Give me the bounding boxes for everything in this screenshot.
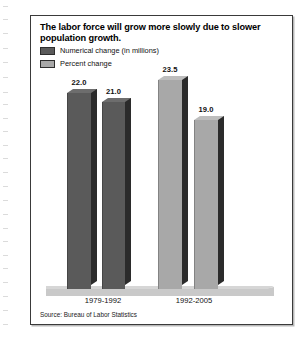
chart-legend: Numerical change (in millions) Percent c… [40, 45, 159, 71]
page-edge-mark [3, 255, 8, 256]
bar-side-face [91, 89, 97, 285]
page-edge-mark [3, 241, 8, 242]
page-edge-mark [3, 228, 8, 229]
bar-front-face [67, 93, 91, 289]
page-edge-mark [3, 324, 8, 325]
bar-1992-2005-percent: 19.0 [194, 120, 218, 289]
page-edge-mark [3, 172, 8, 173]
page-edge-mark [3, 131, 8, 132]
bar-1979-1992-percent: 21.0 [102, 102, 125, 289]
page-edge-mark [3, 282, 8, 283]
chart-title: The labor force will grow more slowly du… [40, 22, 283, 43]
legend-swatch-numerical-change [40, 47, 55, 55]
bar-1979-1992-numerical: 22.0 [67, 93, 91, 289]
page-edge-mark [3, 19, 8, 20]
page-edge-mark [3, 158, 8, 159]
page-edge-mark [3, 186, 8, 187]
page-edge-mark [3, 296, 8, 297]
chart-source-note: Source: Bureau of Labor Statistics [40, 311, 137, 318]
page-edge-mark [3, 145, 8, 146]
bar-front-face [102, 102, 125, 289]
page-edge-mark [3, 62, 8, 63]
category-label-2: 1992-2005 [176, 296, 212, 305]
bar-value-label: 23.5 [163, 65, 178, 74]
bar-value-label: 21.0 [106, 87, 121, 96]
page-edge-mark [3, 92, 8, 93]
bar-side-face [218, 116, 224, 285]
page-edge-mark [3, 268, 8, 269]
bar-value-label: 19.0 [199, 105, 214, 114]
legend-item-percent-change: Percent change [40, 58, 159, 69]
page-edge-mark [3, 118, 8, 119]
bar-front-face [194, 120, 218, 289]
figure-inner: The labor force will grow more slowly du… [31, 16, 292, 324]
page-edge-scan-marks [0, 0, 14, 340]
page-edge-mark [3, 104, 8, 105]
page-edge-mark [3, 310, 8, 311]
page-edge-mark [3, 214, 8, 215]
page-edge-mark [3, 6, 8, 7]
bar-side-face [125, 98, 131, 285]
legend-swatch-percent-change [40, 60, 55, 68]
page-edge-mark [3, 48, 8, 49]
page-edge-mark [3, 200, 8, 201]
bar-front-face [158, 80, 182, 289]
bar-1992-2005-numerical: 23.5 [158, 80, 182, 289]
category-label-1: 1979-1992 [85, 296, 121, 305]
bar-value-label: 22.0 [72, 78, 87, 87]
page-edge-mark [3, 77, 8, 78]
legend-label-percent-change: Percent change [60, 59, 112, 68]
legend-item-numerical-change: Numerical change (in millions) [40, 45, 159, 56]
figure-frame: The labor force will grow more slowly du… [30, 15, 293, 325]
page-edge-mark [3, 33, 8, 34]
bar-side-face [182, 76, 188, 285]
plot-area: 22.021.023.519.0 1979-19921992-2005 [40, 74, 285, 296]
legend-label-numerical-change: Numerical change (in millions) [60, 46, 159, 55]
